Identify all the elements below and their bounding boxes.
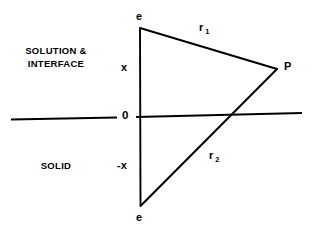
region-label-solution-interface: SOLUTION & INTERFACE xyxy=(8,46,104,68)
r2-distance-line xyxy=(141,69,278,206)
distance-r1-symbol: r xyxy=(199,21,203,33)
distance-r2-symbol: r xyxy=(209,149,213,161)
vertical-axis-line xyxy=(140,28,141,206)
diagram-canvas xyxy=(0,0,313,231)
axis-label-origin: 0 xyxy=(122,110,128,122)
interface-line-left xyxy=(11,118,117,120)
distance-r2-subscript: 2 xyxy=(215,155,219,164)
distance-r1-subscript: 1 xyxy=(205,27,209,36)
region-label-line1: SOLUTION & xyxy=(25,45,87,56)
distance-label-r2: r2 xyxy=(209,150,217,161)
interface-line-right xyxy=(136,113,302,117)
figure-container: SOLUTION & INTERFACE SOLID e e P x 0 -x … xyxy=(0,0,313,231)
charge-label-bottom: e xyxy=(136,212,142,223)
field-point-label-p: P xyxy=(284,61,291,72)
axis-label-positive-x: x xyxy=(121,62,127,73)
region-label-solid: SOLID xyxy=(20,161,92,171)
distance-label-r1: r1 xyxy=(199,22,207,33)
axis-label-negative-x: -x xyxy=(117,160,127,171)
region-label-line2: INTERFACE xyxy=(8,59,104,69)
charge-label-top: e xyxy=(136,11,142,22)
